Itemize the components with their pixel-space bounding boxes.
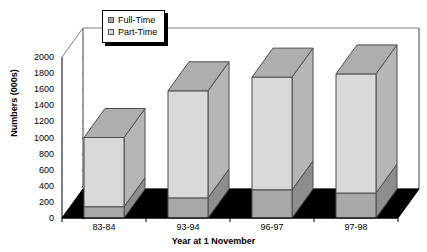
bar-4-part-time-front xyxy=(336,74,376,193)
bar-3-part-time-front xyxy=(252,77,292,190)
bar-2-part-time-front xyxy=(168,91,208,198)
x-tick-label: 97-98 xyxy=(344,222,367,232)
x-tick-label: 93-94 xyxy=(176,222,199,232)
x-axis-tick-labels: 83-8493-9496-9797-98 xyxy=(0,222,427,234)
bar-chart: Numbers (000s) 0200400600800100012001400… xyxy=(0,0,427,252)
plot-area xyxy=(0,0,427,252)
bar-1-full-time-front xyxy=(84,207,124,218)
bar-3-full-time-front xyxy=(252,190,292,218)
x-tick-label: 96-97 xyxy=(260,222,283,232)
part-time-swatch xyxy=(108,29,114,35)
legend-item-part-time: Part-Time xyxy=(108,26,157,38)
full-time-swatch xyxy=(108,17,114,23)
chart-legend: Full-Time Part-Time xyxy=(102,10,165,43)
bar-2-full-time-front xyxy=(168,198,208,218)
legend-label-full-time: Full-Time xyxy=(118,15,155,25)
bar-1-part-time-front xyxy=(84,138,124,207)
x-tick-label: 83-84 xyxy=(92,222,115,232)
legend-item-full-time: Full-Time xyxy=(108,14,157,26)
legend-label-part-time: Part-Time xyxy=(118,27,157,37)
bar-4-full-time-front xyxy=(336,193,376,218)
x-axis-title: Year at 1 November xyxy=(0,236,427,246)
